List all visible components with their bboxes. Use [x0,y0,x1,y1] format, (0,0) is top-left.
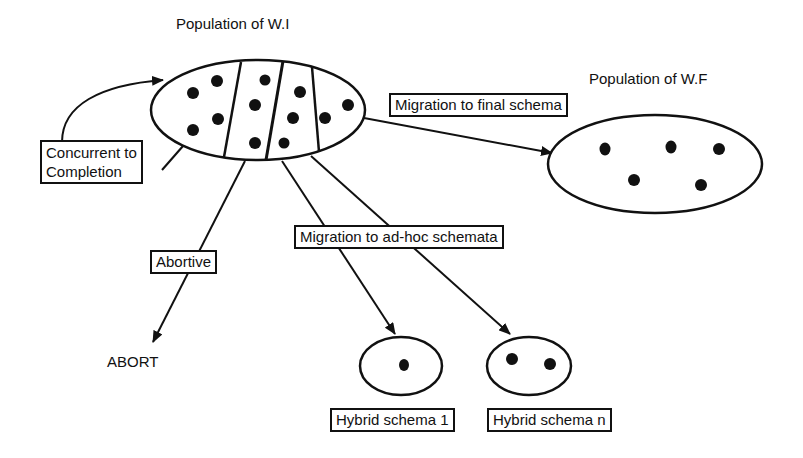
wf-population-node [548,115,762,213]
wi-population-title: Population of W.I [176,15,289,33]
loop-return-line [162,146,183,170]
migration-adhoc-label: Migration to ad-hoc schemata [294,225,504,249]
concurrent-label-line2: Completion [46,162,137,181]
concurrent-to-completion-label: Concurrent to Completion [40,140,143,184]
wi-population-node [151,60,365,160]
loop-arrow [62,80,163,142]
concurrent-label-line1: Concurrent to [46,143,137,162]
migration-final-label: Migration to final schema [389,93,568,117]
migration-final-arrow [364,118,552,153]
abortive-label: Abortive [150,250,217,274]
hybrid-schema-n-node [487,337,571,395]
hybrid-schema-1-label: Hybrid schema 1 [330,408,455,432]
wf-population-title: Population of W.F [589,70,707,88]
hybrid-schema-n-label: Hybrid schema n [487,408,612,432]
hybrid-schema-1-node [360,337,442,395]
abort-node-label: ABORT [107,353,158,371]
